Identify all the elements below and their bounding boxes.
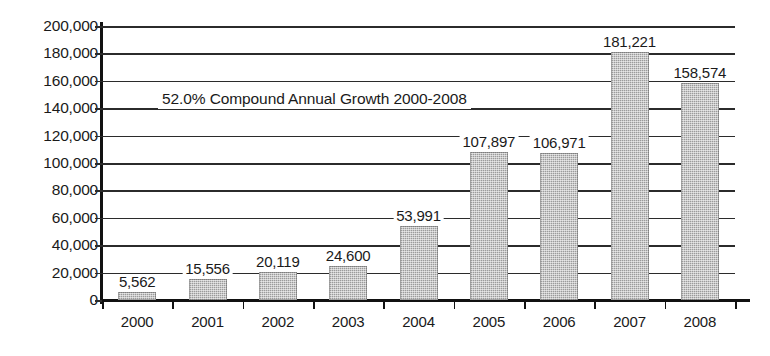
x-axis-tick-label: 2006: [543, 314, 576, 329]
y-axis-tick-label: 200,000: [0, 18, 98, 34]
x-axis-tick: [172, 300, 174, 309]
y-axis-tick-labels: 200,000180,000160,000140,000120,000100,0…: [0, 0, 98, 356]
x-axis-tick-label: 2007: [613, 314, 646, 329]
bar-value-label: 15,556: [182, 261, 233, 276]
y-axis-tick-label: 20,000: [0, 265, 98, 281]
x-axis-tick-label: 2001: [191, 314, 224, 329]
growth-annotation: 52.0% Compound Annual Growth 2000-2008: [158, 89, 471, 109]
bar: [118, 292, 156, 300]
x-axis-tick: [735, 300, 737, 309]
bar-value-label: 181,221: [600, 34, 659, 49]
y-axis-tick-label: 140,000: [0, 100, 98, 116]
x-axis-tick-label: 2003: [332, 314, 365, 329]
x-axis-tick-label: 2008: [684, 314, 717, 329]
bar: [189, 279, 227, 300]
y-axis-tick: [95, 53, 103, 55]
y-axis-tick-label: 100,000: [0, 155, 98, 171]
y-axis-tick: [95, 26, 103, 28]
y-axis-tick: [95, 218, 103, 220]
bar: [329, 266, 367, 300]
y-axis-tick: [95, 273, 103, 275]
bar-value-label: 53,991: [393, 208, 444, 223]
bar: [611, 52, 649, 300]
bar: [470, 152, 508, 300]
bar-value-label: 158,574: [670, 65, 729, 80]
y-axis-tick-label: 60,000: [0, 210, 98, 226]
y-axis-tick-label: 0: [0, 292, 98, 308]
y-axis-tick: [95, 163, 103, 165]
bar: [400, 226, 438, 300]
bar: [259, 272, 297, 300]
y-axis-tick-label: 80,000: [0, 183, 98, 199]
x-axis-tick: [313, 300, 315, 309]
gridline: [102, 26, 735, 28]
x-axis-tick-label: 2005: [473, 314, 506, 329]
y-axis-tick: [95, 136, 103, 138]
y-axis-tick-label: 120,000: [0, 128, 98, 144]
x-axis-tick: [454, 300, 456, 309]
bar-chart: 200,000180,000160,000140,000120,000100,0…: [0, 0, 770, 356]
x-axis-tick: [102, 300, 104, 309]
x-axis-tick: [524, 300, 526, 309]
y-axis-tick-label: 180,000: [0, 46, 98, 62]
x-axis-tick-label: 2002: [262, 314, 295, 329]
x-axis-tick: [665, 300, 667, 309]
y-axis-tick: [95, 190, 103, 192]
x-axis-tick: [383, 300, 385, 309]
y-axis-tick: [95, 108, 103, 110]
bar-value-label: 24,600: [323, 248, 374, 263]
y-axis-tick-label: 40,000: [0, 237, 98, 253]
x-axis-tick-label: 2004: [402, 314, 435, 329]
y-axis-tick: [95, 245, 103, 247]
x-axis-tick-label: 2000: [121, 314, 154, 329]
x-axis-tick: [243, 300, 245, 309]
bar-value-label: 20,119: [253, 254, 303, 269]
y-axis-tick: [95, 81, 103, 83]
x-axis-tick: [594, 300, 596, 309]
bar: [540, 153, 578, 300]
bar: [681, 83, 719, 300]
y-axis-tick-label: 160,000: [0, 73, 98, 89]
bar-value-label: 5,562: [116, 274, 159, 289]
bar-value-label: 106,971: [530, 135, 589, 150]
bar-value-label: 107,897: [459, 134, 518, 149]
